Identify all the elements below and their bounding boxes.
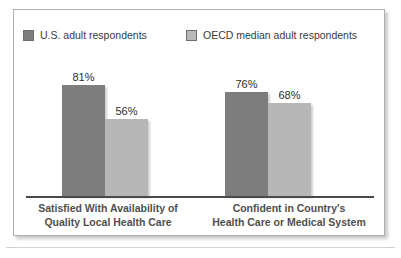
- x-axis-baseline: [26, 196, 374, 198]
- bar-value-label-us-1: 76%: [225, 79, 268, 90]
- chart-legend: U.S. adult respondents OECD median adult…: [14, 24, 386, 46]
- bar-us-satisfied-availability[interactable]: [62, 85, 105, 196]
- legend-swatch-icon-us: [23, 30, 34, 41]
- bar-pair: 76% 68%: [225, 46, 311, 196]
- chart-card: U.S. adult respondents OECD median adult…: [13, 9, 385, 236]
- chart-figure: U.S. adult respondents OECD median adult…: [0, 0, 401, 258]
- bar-oecd-satisfied-availability[interactable]: [105, 119, 148, 196]
- legend-label-us: U.S. adult respondents: [40, 30, 147, 41]
- bar-wrap-oecd-1: 68%: [268, 46, 311, 196]
- plot-area: 81% 56% 76% 68%: [14, 46, 386, 196]
- bar-value-label-us-0: 81%: [62, 72, 105, 83]
- legend-swatch-icon-oecd: [186, 30, 197, 41]
- bar-wrap-us-1: 76%: [225, 46, 268, 196]
- category-label-line-1: Satisfied With Availability of: [23, 201, 193, 215]
- bar-value-label-oecd-1: 68%: [268, 90, 311, 101]
- category-label-line-2: Quality Local Health Care: [23, 215, 193, 229]
- category-label-satisfied-availability: Satisfied With Availability of Quality L…: [23, 201, 193, 229]
- legend-label-oecd: OECD median adult respondents: [203, 30, 357, 41]
- category-label-line-1: Confident in Country's: [200, 201, 378, 215]
- x-axis-category-labels: Satisfied With Availability of Quality L…: [14, 201, 386, 235]
- bar-pair: 81% 56%: [62, 46, 148, 196]
- legend-item-oecd-median-adult-respondents[interactable]: OECD median adult respondents: [186, 24, 357, 46]
- page-divider-rule: [6, 247, 395, 248]
- category-label-line-2: Health Care or Medical System: [200, 215, 378, 229]
- bar-wrap-oecd-0: 56%: [105, 46, 148, 196]
- category-label-confident-system: Confident in Country's Health Care or Me…: [200, 201, 378, 229]
- bar-value-label-oecd-0: 56%: [105, 106, 148, 117]
- bar-wrap-us-0: 81%: [62, 46, 105, 196]
- bar-oecd-confident-system[interactable]: [268, 103, 311, 196]
- bar-us-confident-system[interactable]: [225, 92, 268, 196]
- legend-item-us-adult-respondents[interactable]: U.S. adult respondents: [23, 24, 147, 46]
